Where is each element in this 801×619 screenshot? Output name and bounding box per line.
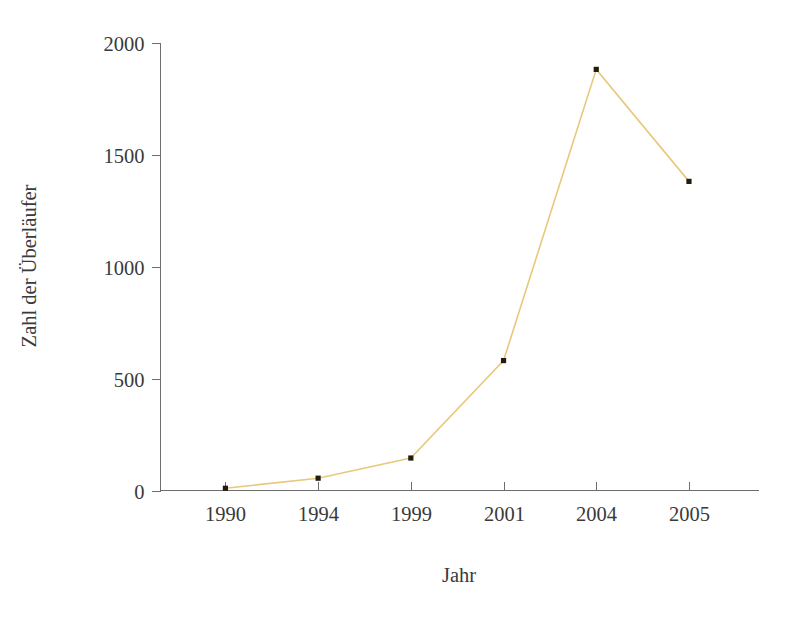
y-tick-label: 2000 bbox=[104, 33, 145, 55]
data-point-marker bbox=[316, 476, 321, 481]
y-tick-label: 1000 bbox=[104, 257, 145, 279]
x-tick-label: 2001 bbox=[484, 503, 525, 525]
y-tick-label: 500 bbox=[114, 369, 145, 391]
data-point-marker bbox=[408, 455, 413, 460]
y-tick-label: 0 bbox=[134, 481, 144, 503]
x-tick-label: 2004 bbox=[576, 503, 617, 525]
x-axis-title: Jahr bbox=[442, 564, 476, 586]
x-tick-label: 1994 bbox=[298, 503, 339, 525]
x-tick-label: 1990 bbox=[205, 503, 246, 525]
chart-container: 0500100015002000 19901994199920012004200… bbox=[0, 0, 801, 619]
data-point-marker bbox=[223, 486, 228, 491]
data-point-marker bbox=[501, 358, 506, 363]
data-point-marker bbox=[594, 67, 599, 72]
y-tick-label: 1500 bbox=[104, 145, 145, 167]
y-axis-title: Zahl der Überläufer bbox=[18, 184, 40, 347]
data-point-marker bbox=[686, 179, 691, 184]
line-chart: 0500100015002000 19901994199920012004200… bbox=[0, 0, 801, 619]
x-tick-label: 1999 bbox=[391, 503, 432, 525]
x-tick-label: 2005 bbox=[669, 503, 710, 525]
chart-background bbox=[0, 0, 801, 619]
